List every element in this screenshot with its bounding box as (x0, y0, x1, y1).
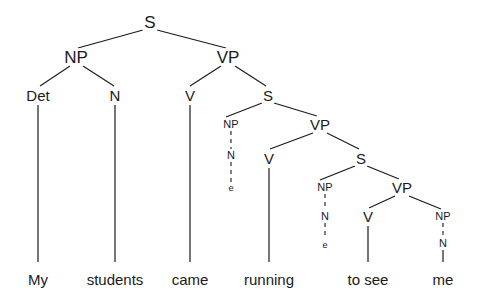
tree-node-s3: S (354, 151, 368, 166)
tree-node-n4: N (437, 238, 449, 249)
tree-terminal-me: me (433, 272, 454, 287)
tree-edge-s2-to-vp2 (274, 103, 317, 116)
tree-node-v3: V (361, 209, 375, 224)
tree-edge-s3-to-np3 (320, 166, 355, 180)
tree-node-n1: N (108, 88, 123, 103)
tree-node-vp1: VP (215, 49, 242, 66)
tree-edge-np1-to-det1 (40, 66, 70, 86)
tree-node-det1: Det (24, 88, 51, 103)
tree-node-vp2: VP (308, 117, 332, 132)
tree-edge-np1-to-n1 (83, 66, 114, 86)
tree-edge-vp3-to-v3 (369, 196, 395, 208)
tree-edge-s1-to-vp1 (157, 30, 226, 48)
tree-node-n3: N (319, 211, 331, 222)
tree-edge-vp2-to-s3 (327, 133, 359, 149)
tree-terminal-running: running (244, 272, 294, 287)
tree-node-np4: NP (433, 211, 452, 222)
tree-terminal-my: My (28, 272, 48, 287)
tree-node-s2: S (261, 88, 275, 103)
tree-edge-vp3-to-np4 (409, 196, 441, 209)
tree-node-vp3: VP (390, 180, 414, 195)
tree-node-s1: S (142, 14, 157, 31)
tree-node-v2: V (262, 151, 276, 166)
tree-edge-s1-to-np1 (78, 30, 143, 48)
tree-node-e1: e (226, 184, 235, 193)
tree-edge-vp1-to-v1 (190, 66, 221, 86)
tree-node-n2: N (225, 150, 237, 161)
tree-edge-vp1-to-s2 (235, 66, 266, 86)
tree-terminal-students: students (87, 272, 144, 287)
tree-edge-vp2-to-v2 (270, 133, 313, 149)
tree-node-v1: V (183, 88, 197, 103)
tree-node-e2: e (320, 241, 329, 250)
tree-node-np3: NP (315, 182, 334, 193)
tree-edges-layer (0, 0, 479, 307)
tree-terminal-came: came (172, 272, 209, 287)
syntax-tree-figure: SNPVPDetNVSNPVPNeVSNPVPNeVNPN Mystudents… (0, 0, 479, 307)
tree-edge-s2-to-np2 (226, 103, 262, 117)
tree-edge-s3-to-vp3 (367, 166, 399, 179)
tree-node-np2: NP (221, 119, 240, 130)
tree-terminal-to-see: to see (348, 272, 389, 287)
tree-node-np1: NP (62, 49, 90, 66)
